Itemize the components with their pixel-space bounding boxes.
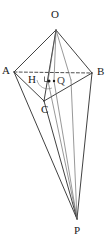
vertex-label-C: C	[41, 104, 48, 115]
geometry-drawing	[0, 0, 110, 243]
second-point-dot	[53, 80, 55, 82]
vertex-label-A: A	[2, 65, 10, 76]
vertex-label-P: P	[74, 225, 80, 236]
edge-O-B	[56, 30, 92, 73]
edge-A-B	[14, 72, 92, 73]
geometry-figure: O A B H Q C P	[0, 0, 110, 243]
vertex-label-B: B	[97, 66, 104, 77]
vertex-label-H: H	[28, 74, 36, 85]
vertex-label-O: O	[51, 9, 59, 20]
vertex-label-Q: Q	[57, 75, 65, 86]
edge-B-P	[77, 73, 92, 219]
cevian-E-P	[71, 80, 77, 219]
altitude-H-P	[48, 81, 77, 219]
foot-point-dot	[48, 80, 51, 83]
